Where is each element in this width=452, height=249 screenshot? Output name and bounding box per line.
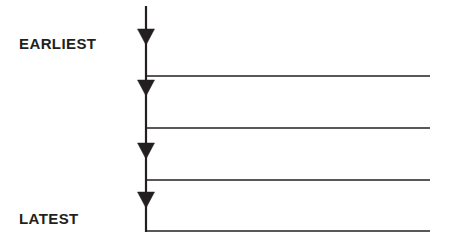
event-lines-group: [146, 76, 430, 231]
arrow-4-icon: [138, 192, 155, 208]
label-earliest: EARLIEST: [19, 36, 96, 52]
arrow-3-icon: [138, 143, 155, 159]
arrow-1-icon: [138, 29, 155, 45]
label-latest: LATEST: [19, 211, 79, 227]
arrow-2-icon: [138, 80, 155, 96]
diagram-canvas: EARLIEST LATEST: [0, 0, 452, 249]
